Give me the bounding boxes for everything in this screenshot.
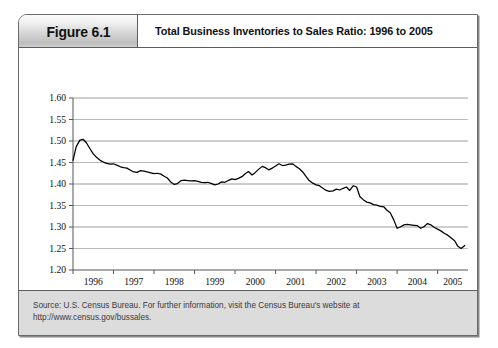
x-tick-marks	[73, 270, 438, 274]
svg-text:1.55: 1.55	[49, 114, 66, 125]
svg-text:2003: 2003	[367, 276, 386, 287]
figure-source-note: Source: U.S. Census Bureau. For further …	[33, 300, 438, 323]
grid-lines	[73, 98, 468, 249]
y-tick-marks	[69, 98, 73, 270]
source-line-2: http://www.census.gov/bussales.	[33, 313, 151, 322]
svg-text:2001: 2001	[286, 276, 305, 287]
svg-text:2004: 2004	[408, 276, 427, 287]
svg-text:1.40: 1.40	[49, 178, 66, 189]
svg-text:1.60: 1.60	[49, 92, 66, 103]
data-series-line	[73, 139, 465, 248]
svg-text:2002: 2002	[327, 276, 346, 287]
figure-footer: Source: U.S. Census Bureau. For further …	[19, 290, 477, 335]
svg-text:1.20: 1.20	[49, 264, 66, 275]
line-chart: 1.601.551.501.451.401.351.301.251.20 199…	[19, 48, 477, 290]
svg-text:2005: 2005	[443, 276, 462, 287]
source-line-1: Source: U.S. Census Bureau. For further …	[33, 301, 360, 310]
chart-plot-region: 1.601.551.501.451.401.351.301.251.20 199…	[19, 48, 477, 290]
svg-text:1.35: 1.35	[49, 200, 66, 211]
figure-number-label: Figure 6.1	[46, 23, 110, 40]
svg-text:1996: 1996	[84, 276, 103, 287]
x-axis-tick-labels: 1996199719981999200020012002200320042005	[84, 276, 463, 287]
svg-text:1.30: 1.30	[49, 221, 66, 232]
y-axis-tick-labels: 1.601.551.501.451.401.351.301.251.20	[49, 92, 66, 275]
svg-text:1.50: 1.50	[49, 135, 66, 146]
figure-title: Total Business Inventories to Sales Rati…	[155, 25, 433, 37]
figure-title-box: Total Business Inventories to Sales Rati…	[138, 15, 477, 47]
svg-text:1998: 1998	[165, 276, 184, 287]
svg-text:1.25: 1.25	[49, 243, 66, 254]
svg-text:1999: 1999	[205, 276, 224, 287]
svg-text:2000: 2000	[246, 276, 265, 287]
figure-header: Figure 6.1 Total Business Inventories to…	[19, 15, 477, 48]
figure-number-box: Figure 6.1	[19, 15, 138, 47]
svg-text:1997: 1997	[124, 276, 143, 287]
figure-container: Figure 6.1 Total Business Inventories to…	[18, 14, 478, 336]
svg-text:1.45: 1.45	[49, 157, 66, 168]
